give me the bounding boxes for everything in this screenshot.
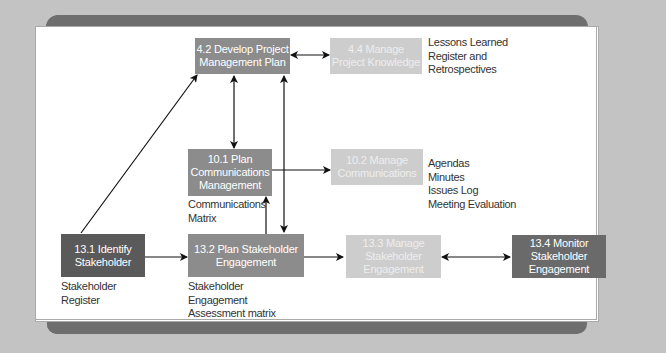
output-item: Matrix [188, 212, 266, 226]
output-manage-comms: Agendas Minutes Issues Log Meeting Evalu… [428, 157, 516, 211]
output-item: Register [61, 294, 116, 308]
node-plan-stakeholder-engagement: 13.2 Plan Stakeholder Engagement [188, 234, 304, 277]
node-develop-pm-plan: 4.2 Develop Project Management Plan [195, 38, 290, 74]
node-label: Communications [190, 166, 269, 179]
output-item: Register and [428, 50, 508, 64]
node-label: 13.2 Plan Stakeholder [194, 243, 298, 256]
node-monitor-stakeholder-engagement: 13.4 Monitor Stakeholder Engagement [512, 235, 606, 278]
node-label: Management [199, 179, 261, 192]
output-plan-stakeholder: Stakeholder Engagement Assessment matrix [188, 280, 276, 321]
node-label: Project Knowledge [332, 56, 420, 69]
output-item: Stakeholder [188, 280, 276, 294]
node-label: Management Plan [199, 56, 285, 69]
node-label: 13.4 Monitor [530, 237, 589, 250]
output-item: Engagement [188, 294, 276, 308]
output-identify: Stakeholder Register [61, 280, 116, 307]
node-label: Engagement [529, 263, 589, 276]
output-item: Issues Log [428, 184, 516, 198]
node-label: Stakeholder [365, 250, 422, 263]
node-label: 13.1 Identify [74, 243, 131, 256]
node-label: 4.4 Manage [348, 43, 404, 56]
node-label: Stakeholder [531, 250, 588, 263]
output-item: Assessment matrix [188, 307, 276, 321]
node-label: Engagement [216, 256, 276, 269]
node-manage-communications: 10.2 Manage Communications [331, 149, 423, 185]
node-label: Engagement [363, 263, 423, 276]
output-item: Stakeholder [61, 280, 116, 294]
output-item: Minutes [428, 171, 516, 185]
output-item: Retrospectives [428, 63, 508, 77]
output-item: Agendas [428, 157, 516, 171]
node-label: 10.1 Plan [208, 153, 253, 166]
node-label: 4.2 Develop Project [196, 43, 288, 56]
node-label: 13.3 Manage [362, 237, 424, 250]
output-item: Meeting Evaluation [428, 198, 516, 212]
node-label: Communications [337, 167, 416, 180]
output-item: Lessons Learned [428, 36, 508, 50]
node-label: 10.2 Manage [346, 154, 408, 167]
node-label: Stakeholder [75, 256, 132, 269]
node-plan-communications: 10.1 Plan Communications Management [188, 149, 272, 196]
node-manage-stakeholder-engagement: 13.3 Manage Stakeholder Engagement [346, 235, 441, 278]
output-item: Communications [188, 198, 266, 212]
node-manage-project-knowledge: 4.4 Manage Project Knowledge [330, 38, 422, 74]
output-plan-comms: Communications Matrix [188, 198, 266, 225]
output-knowledge: Lessons Learned Register and Retrospecti… [428, 36, 508, 77]
node-identify-stakeholder: 13.1 Identify Stakeholder [61, 234, 145, 277]
